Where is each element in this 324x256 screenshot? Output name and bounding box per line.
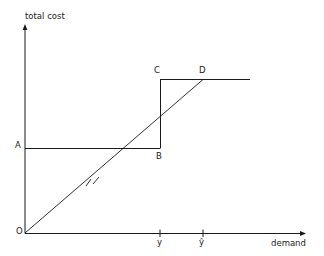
figure-canvas <box>0 0 324 256</box>
x-tick-label-y: y <box>157 238 162 247</box>
y-axis-label: total cost <box>25 12 65 21</box>
point-label-d: D <box>199 66 206 75</box>
origin-label: O <box>16 227 23 236</box>
x-axis-arrow-icon <box>300 231 306 236</box>
segment-o-d <box>25 80 203 234</box>
point-label-b: B <box>156 152 162 161</box>
x-tick-label-yhat: ŷ <box>199 238 204 247</box>
point-label-a: A <box>15 141 21 150</box>
x-axis-label: demand <box>271 239 306 248</box>
y-axis <box>23 24 28 234</box>
cost-demand-figure: total cost demand O A B C D y ŷ <box>0 0 324 256</box>
point-label-c: C <box>154 66 160 75</box>
x-axis <box>25 231 306 236</box>
y-axis-arrow-icon <box>23 24 28 30</box>
